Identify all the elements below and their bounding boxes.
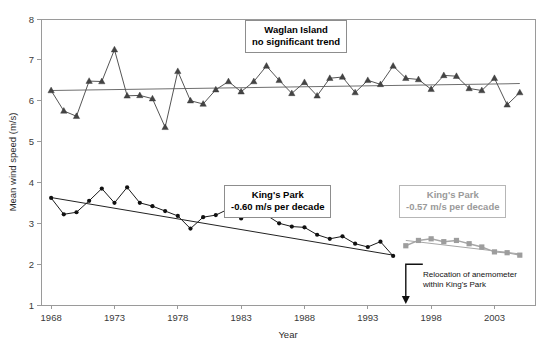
data-point-marker xyxy=(390,63,396,69)
x-tick-label: 1968 xyxy=(41,312,62,323)
data-point-marker xyxy=(441,239,446,244)
data-point-marker xyxy=(238,88,244,94)
data-point-marker xyxy=(214,213,218,217)
data-point-marker xyxy=(100,186,104,190)
data-point-marker xyxy=(353,242,357,246)
relocation-arrow-head xyxy=(402,296,410,304)
data-point-marker xyxy=(378,240,382,244)
data-point-marker xyxy=(302,225,306,229)
annotation-kp-left-line2: -0.60 m/s per decade xyxy=(231,201,324,213)
trendline xyxy=(51,198,393,256)
y-tick-label: 5 xyxy=(29,136,34,147)
data-point-marker xyxy=(365,77,371,83)
data-point-marker xyxy=(201,215,205,219)
data-point-marker xyxy=(62,212,66,216)
data-point-marker xyxy=(176,214,180,218)
data-point-marker xyxy=(74,210,78,214)
x-tick-label: 1978 xyxy=(167,312,188,323)
data-point-marker xyxy=(492,249,497,254)
x-tick-label: 1998 xyxy=(421,312,442,323)
data-point-marker xyxy=(340,234,344,238)
data-point-marker xyxy=(403,243,408,248)
data-point-marker xyxy=(225,78,231,84)
y-tick-label: 8 xyxy=(29,14,34,25)
data-point-marker xyxy=(163,209,167,213)
annotation-reloc-line1: Relocation of anemometer xyxy=(423,270,517,280)
data-point-marker xyxy=(479,244,484,249)
data-point-marker xyxy=(138,201,142,205)
x-axis-title: Year xyxy=(278,329,297,340)
y-tick-label: 6 xyxy=(29,95,34,106)
data-point-marker xyxy=(416,238,421,243)
chart-series xyxy=(48,46,523,258)
data-point-marker xyxy=(517,89,523,95)
data-point-marker xyxy=(505,250,510,255)
data-point-marker xyxy=(366,245,370,249)
annotation-kings-park-trend: King's Park -0.60 m/s per decade xyxy=(224,185,331,218)
y-tick-label: 4 xyxy=(29,177,34,188)
data-point-marker xyxy=(454,238,459,243)
series-polyline xyxy=(51,187,393,256)
data-point-marker xyxy=(277,221,281,225)
data-point-marker xyxy=(187,97,193,103)
data-point-marker xyxy=(429,236,434,241)
data-point-marker xyxy=(328,237,332,241)
data-point-marker xyxy=(150,204,154,208)
data-point-marker xyxy=(467,241,472,246)
data-point-marker xyxy=(301,79,307,85)
chart-axis-titles: Mean wind speed (m/s) Year xyxy=(7,113,298,340)
x-tick-label: 1983 xyxy=(231,312,252,323)
data-point-marker xyxy=(391,254,395,258)
data-point-marker xyxy=(441,72,447,78)
data-point-marker xyxy=(188,226,192,230)
annotation-kp-right-line2: -0.57 m/s per decade xyxy=(406,201,499,213)
annotation-relocation: Relocation of anemometer within King's P… xyxy=(423,270,517,290)
annotation-waglan-line1: Waglan Island xyxy=(252,24,340,36)
annotation-waglan-line2: no significant trend xyxy=(252,36,340,48)
relocation-arrow-line xyxy=(406,264,423,298)
annotation-waglan-island: Waglan Island no significant trend xyxy=(245,20,347,53)
data-point-marker xyxy=(213,86,219,92)
y-tick-label: 2 xyxy=(29,259,34,270)
data-point-marker xyxy=(125,185,129,189)
y-axis-title: Mean wind speed (m/s) xyxy=(7,113,18,212)
series-polyline xyxy=(51,50,520,128)
data-point-marker xyxy=(49,196,53,200)
y-tick-label: 7 xyxy=(29,54,34,65)
data-point-marker xyxy=(86,78,92,84)
data-point-marker xyxy=(339,74,345,80)
data-point-marker xyxy=(290,224,294,228)
x-tick-label: 2003 xyxy=(484,312,505,323)
data-point-marker xyxy=(137,92,143,98)
data-point-marker xyxy=(111,46,117,52)
chart-annotation-arrow xyxy=(402,264,423,304)
annotation-reloc-line2: within King's Park xyxy=(423,280,517,290)
wind-speed-chart: 1234567819681973197819831988199319982003… xyxy=(0,0,554,352)
annotation-kings-park-relocated-trend: King's Park -0.57 m/s per decade xyxy=(399,185,506,218)
x-tick-label: 1993 xyxy=(357,312,378,323)
data-point-marker xyxy=(517,253,522,258)
data-point-marker xyxy=(112,201,116,205)
data-point-marker xyxy=(175,68,181,74)
data-point-marker xyxy=(162,124,168,130)
annotation-kp-right-line1: King's Park xyxy=(406,189,499,201)
data-point-marker xyxy=(315,233,319,237)
y-tick-label: 3 xyxy=(29,218,34,229)
x-tick-label: 1973 xyxy=(104,312,125,323)
annotation-kp-left-line1: King's Park xyxy=(231,189,324,201)
data-point-marker xyxy=(87,199,91,203)
y-tick-label: 1 xyxy=(29,300,34,311)
data-point-marker xyxy=(263,63,269,69)
data-point-marker xyxy=(61,108,67,114)
data-point-marker xyxy=(491,75,497,81)
x-tick-label: 1988 xyxy=(294,312,315,323)
